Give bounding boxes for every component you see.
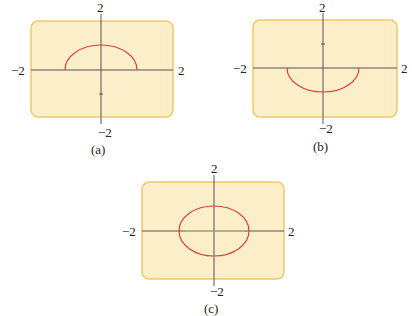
panel-a-ymin-label: −2 [98,126,112,139]
panel-b-ymax-label: 2 [319,1,326,14]
panel-c-caption: (c) [204,302,218,315]
panel-a-graph [31,14,173,124]
panel-c-ymin-label: −2 [210,285,224,298]
panel-b-xmin-label: −2 [233,62,247,75]
panel-c-graph [142,175,284,286]
panel-c-ymax-label: 2 [211,162,218,175]
panel-b-xmax-label: 2 [401,62,408,75]
panel-b-ymin-label: −2 [319,122,333,135]
panel-a-xmin-label: −2 [11,64,25,77]
panel-c-xmax-label: 2 [288,225,295,238]
panel-b-caption: (b) [313,140,328,153]
panel-a-caption: (a) [91,143,105,156]
panel-a-ymax-label: 2 [97,1,104,14]
panel-b-graph [253,13,397,124]
panel-a-xmax-label: 2 [178,64,185,77]
panel-c-xmin-label: −2 [122,225,136,238]
